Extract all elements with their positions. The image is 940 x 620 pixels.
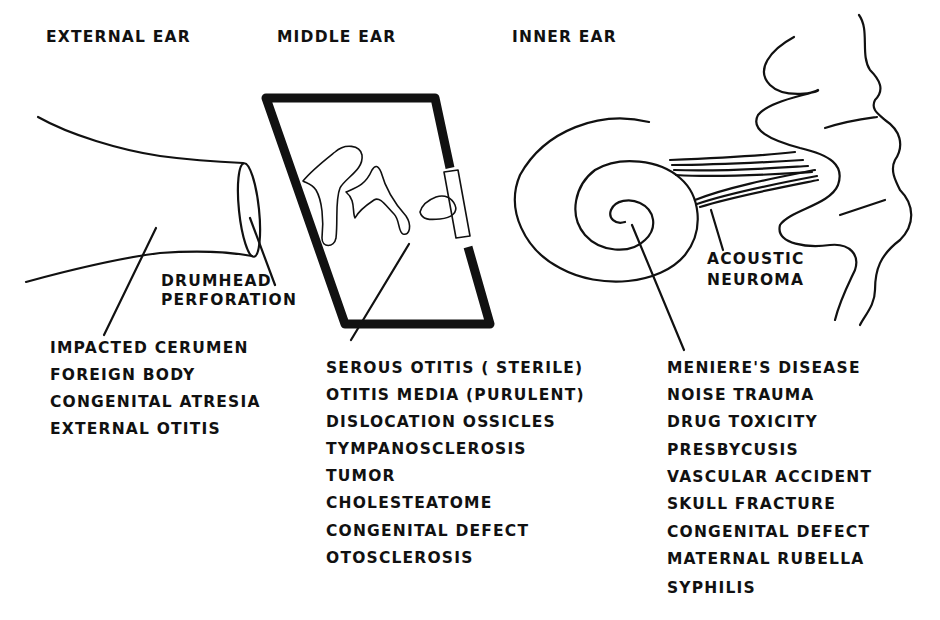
- middle-condition: DISLOCATION OSSICLES: [326, 415, 556, 431]
- middle-condition: CONGENITAL DEFECT: [326, 524, 529, 540]
- external-ear-header: EXTERNAL EAR: [46, 30, 191, 46]
- inner-condition: SKULL FRACTURE: [667, 497, 836, 513]
- external-condition: IMPACTED CERUMEN: [50, 341, 249, 357]
- middle-condition: OTITIS MEDIA (PURULENT): [326, 388, 585, 404]
- inner-condition: MATERNAL RUBELLA: [667, 552, 864, 568]
- neuroma-callout-line2: NEUROMA: [707, 273, 804, 289]
- middle-ear-box-drawing: [266, 98, 490, 340]
- inner-condition: PRESBYCUSIS: [667, 443, 799, 459]
- external-condition: EXTERNAL OTITIS: [50, 422, 221, 438]
- external-condition: FOREIGN BODY: [50, 368, 196, 384]
- drumhead-callout-line1: DRUMHEAD: [161, 274, 272, 290]
- inner-condition: CONGENITAL DEFECT: [667, 525, 870, 541]
- inner-ear-header: INNER EAR: [512, 30, 617, 46]
- neuroma-callout-line1: ACOUSTIC: [707, 252, 805, 268]
- inner-condition: VASCULAR ACCIDENT: [667, 470, 872, 486]
- inner-condition: NOISE TRAUMA: [667, 388, 815, 404]
- inner-condition: DRUG TOXICITY: [667, 415, 818, 431]
- inner-condition: SYPHILIS: [667, 581, 756, 597]
- middle-condition: OTOSCLEROSIS: [326, 551, 474, 567]
- middle-condition: CHOLESTEATOME: [326, 496, 492, 512]
- middle-condition: SEROUS OTITIS ( STERILE): [326, 361, 583, 377]
- middle-condition: TUMOR: [326, 469, 396, 485]
- external-condition: CONGENITAL ATRESIA: [50, 395, 261, 411]
- drumhead-callout-line2: PERFORATION: [161, 293, 297, 309]
- middle-condition: TYMPANOSCLEROSIS: [326, 442, 527, 458]
- cochlea-drawing: [515, 119, 818, 350]
- inner-condition: MENIERE'S DISEASE: [667, 361, 861, 377]
- middle-ear-header: MIDDLE EAR: [277, 30, 396, 46]
